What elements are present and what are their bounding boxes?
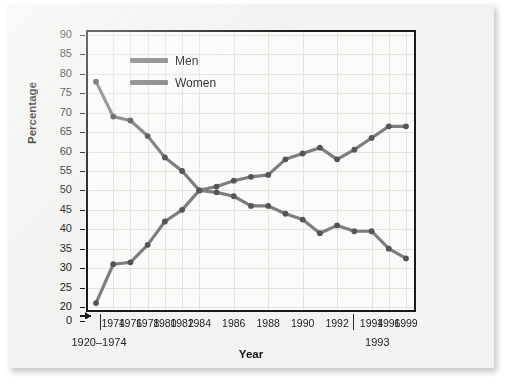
legend-swatch-men <box>130 58 168 63</box>
legend-item-women: Women <box>130 74 216 91</box>
y-tick-mark <box>80 171 85 172</box>
x-axis-group-divider <box>353 314 354 330</box>
y-tick-label: 30 <box>38 262 72 273</box>
y-tick-mark <box>80 321 85 322</box>
y-tick-label: 25 <box>38 282 72 293</box>
x-axis-group-divider <box>100 314 101 330</box>
legend-item-men: Men <box>130 52 216 69</box>
y-tick-label: 60 <box>38 146 72 157</box>
y-tick-mark <box>80 35 85 36</box>
screenshot-page: Percentage 02025303540455055606570758085… <box>0 0 512 388</box>
y-tick-mark <box>80 229 85 230</box>
y-tick-label: 35 <box>38 243 72 254</box>
y-tick-mark <box>80 288 85 289</box>
y-tick-mark <box>80 113 85 114</box>
y-axis-title: Percentage <box>26 82 38 144</box>
y-tick-label: 80 <box>38 68 72 79</box>
x-tick-label: 1999 <box>384 318 428 329</box>
y-tick-label: 40 <box>38 223 72 234</box>
y-tick-mark <box>80 249 85 250</box>
y-tick-label: 90 <box>38 29 72 40</box>
y-tick-label: 20 <box>38 301 72 312</box>
y-tick-mark <box>80 93 85 94</box>
y-tick-label: 0 <box>38 315 72 326</box>
y-tick-label: 45 <box>38 204 72 215</box>
chart-figure: Percentage 02025303540455055606570758085… <box>8 4 494 368</box>
x-axis-title: Year <box>86 348 416 360</box>
x-axis-group-label: 1920–1974 <box>54 336 144 348</box>
y-tick-label: 75 <box>38 87 72 98</box>
y-tick-mark <box>80 54 85 55</box>
y-tick-label: 55 <box>38 165 72 176</box>
y-tick-label: 65 <box>38 126 72 137</box>
legend-swatch-women <box>130 80 168 85</box>
x-axis-group-label: 1993 <box>332 336 422 348</box>
chart-legend: Men Women <box>130 52 216 96</box>
y-tick-mark <box>80 152 85 153</box>
y-tick-mark <box>80 210 85 211</box>
y-tick-mark <box>80 132 85 133</box>
legend-label-women: Women <box>175 76 216 90</box>
y-tick-label: 50 <box>38 184 72 195</box>
scanned-page-sheet: Percentage 02025303540455055606570758085… <box>8 4 494 368</box>
y-tick-label: 85 <box>38 48 72 59</box>
y-tick-label: 70 <box>38 107 72 118</box>
y-tick-mark <box>80 268 85 269</box>
y-tick-mark <box>80 190 85 191</box>
legend-label-men: Men <box>175 54 198 68</box>
y-tick-mark <box>80 74 85 75</box>
